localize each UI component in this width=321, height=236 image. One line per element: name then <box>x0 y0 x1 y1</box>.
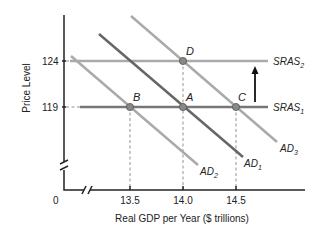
point-b-label: B <box>133 91 140 103</box>
shift-arrow-icon <box>252 66 259 102</box>
chart: B A C D SRAS2 SRAS1 AD3 AD1 AD2 124 119 … <box>0 0 321 236</box>
point-c-label: C <box>238 91 246 103</box>
ad3-label: AD3 <box>279 143 298 156</box>
y-tick-124: 124 <box>42 56 59 67</box>
x-tick-0: 0 <box>53 195 59 206</box>
point-d-label: D <box>186 45 194 57</box>
x-axis-title: Real GDP per Year ($ trillions) <box>115 213 249 224</box>
point-a-label: A <box>185 91 193 103</box>
x-tick-13-5: 13.5 <box>120 195 140 206</box>
sras2-label: SRAS2 <box>273 56 304 69</box>
sras1-label: SRAS1 <box>273 102 304 115</box>
ad2-line <box>71 56 198 165</box>
y-axis-title: Price Level <box>21 63 32 112</box>
y-tick-119: 119 <box>42 102 58 113</box>
x-tick-14-5: 14.5 <box>226 195 246 206</box>
ad2-label: AD2 <box>199 166 218 179</box>
ad1-label: AD1 <box>243 158 262 171</box>
x-tick-14-0: 14.0 <box>173 195 193 206</box>
